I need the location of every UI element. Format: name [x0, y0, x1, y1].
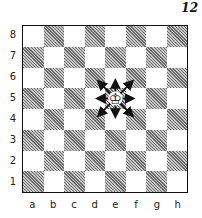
- file-label: f: [126, 199, 146, 210]
- square-d5: [85, 88, 106, 109]
- rank-label: 5: [8, 92, 18, 103]
- square-d6: [85, 68, 106, 89]
- rank-label: 2: [8, 155, 18, 166]
- file-label: h: [168, 199, 188, 210]
- square-b2: [44, 151, 65, 172]
- file-label: g: [147, 199, 167, 210]
- square-d7: [85, 47, 106, 68]
- file-label: c: [64, 199, 84, 210]
- rank-label: 1: [8, 176, 18, 187]
- square-c1: [64, 171, 85, 192]
- square-e4: [105, 109, 126, 130]
- square-b8: [44, 26, 65, 47]
- square-a8: [23, 26, 44, 47]
- square-b4: [44, 109, 65, 130]
- square-a1: [23, 171, 44, 192]
- square-a7: [23, 47, 44, 68]
- square-e2: [105, 151, 126, 172]
- file-label: b: [43, 199, 63, 210]
- square-f1: [126, 171, 147, 192]
- square-c5: [64, 88, 85, 109]
- square-h5: [167, 88, 188, 109]
- square-a4: [23, 109, 44, 130]
- file-label: d: [85, 199, 105, 210]
- square-h6: [167, 68, 188, 89]
- square-g2: [146, 151, 167, 172]
- square-c2: [64, 151, 85, 172]
- square-g1: [146, 171, 167, 192]
- square-d1: [85, 171, 106, 192]
- square-g6: [146, 68, 167, 89]
- square-c7: [64, 47, 85, 68]
- square-d2: [85, 151, 106, 172]
- square-g7: [146, 47, 167, 68]
- square-g5: [146, 88, 167, 109]
- square-h3: [167, 130, 188, 151]
- square-e6: [105, 68, 126, 89]
- square-f8: [126, 26, 147, 47]
- rank-label: 6: [8, 71, 18, 82]
- square-f7: [126, 47, 147, 68]
- square-e1: [105, 171, 126, 192]
- square-f4: [126, 109, 147, 130]
- square-e8: [105, 26, 126, 47]
- chess-board: [22, 25, 188, 193]
- square-e5: [105, 88, 126, 109]
- square-d8: [85, 26, 106, 47]
- square-c6: [64, 68, 85, 89]
- rank-label: 7: [8, 50, 18, 61]
- square-h1: [167, 171, 188, 192]
- square-c8: [64, 26, 85, 47]
- square-f5: [126, 88, 147, 109]
- square-h7: [167, 47, 188, 68]
- rank-label: 4: [8, 113, 18, 124]
- square-b6: [44, 68, 65, 89]
- square-a2: [23, 151, 44, 172]
- square-b3: [44, 130, 65, 151]
- square-e3: [105, 130, 126, 151]
- square-a3: [23, 130, 44, 151]
- square-c4: [64, 109, 85, 130]
- square-e7: [105, 47, 126, 68]
- square-g4: [146, 109, 167, 130]
- square-b7: [44, 47, 65, 68]
- square-b5: [44, 88, 65, 109]
- square-d4: [85, 109, 106, 130]
- square-g3: [146, 130, 167, 151]
- square-h2: [167, 151, 188, 172]
- square-h8: [167, 26, 188, 47]
- figure-number: 12: [181, 1, 198, 15]
- square-b1: [44, 171, 65, 192]
- square-g8: [146, 26, 167, 47]
- rank-label: 8: [8, 29, 18, 40]
- square-h4: [167, 109, 188, 130]
- square-a6: [23, 68, 44, 89]
- square-f6: [126, 68, 147, 89]
- square-c3: [64, 130, 85, 151]
- file-label: e: [105, 199, 125, 210]
- square-f3: [126, 130, 147, 151]
- square-d3: [85, 130, 106, 151]
- file-label: a: [22, 199, 42, 210]
- rank-label: 3: [8, 134, 18, 145]
- square-f2: [126, 151, 147, 172]
- square-a5: [23, 88, 44, 109]
